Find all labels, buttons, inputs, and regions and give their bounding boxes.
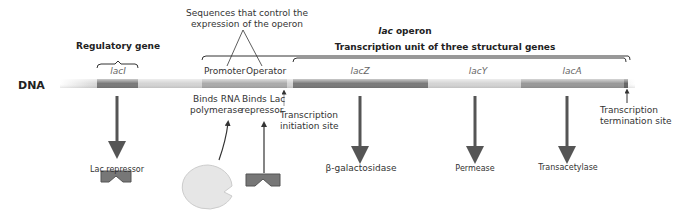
promoter-label: Promoter: [204, 66, 245, 77]
control-title-2: expression of the operon: [191, 19, 303, 30]
transacetylase-label: Transacetylase: [538, 162, 597, 173]
binds-lac-2: repressor: [241, 105, 283, 116]
permease-label: Permease: [455, 163, 494, 174]
binds-rna-1: Binds RNA: [193, 94, 240, 105]
binds-lac-1: Binds Lac: [242, 94, 285, 105]
term-site-2: termination site: [600, 116, 671, 127]
rna-polymerase-icon: [182, 165, 232, 209]
regulatory-gene-label: Regulatory gene: [76, 41, 160, 52]
transcription-unit-label: Transcription unit of three structural g…: [335, 42, 556, 53]
init-site-2: initiation site: [280, 121, 339, 132]
init-site-1: Transcription: [280, 110, 338, 121]
control-title-1: Sequences that control the: [186, 8, 308, 19]
diagram-graphics: [0, 0, 683, 210]
binds-rna-2: polymerase: [190, 105, 243, 116]
lacy-label: lacY: [469, 66, 487, 77]
laca-label: lacA: [562, 66, 581, 77]
b-galactosidase-label: β-galactosidase: [326, 163, 397, 174]
dna-strand: [60, 79, 635, 88]
laci-label: lacI: [110, 66, 126, 77]
lacz-label: lacZ: [350, 66, 369, 77]
operator-label: Operator: [246, 66, 286, 77]
lac-repressor-bound-icon: [246, 174, 280, 186]
term-site-1: Transcription: [600, 105, 658, 116]
lac-operon-title: lac operon: [378, 26, 431, 37]
lac-repressor-label: Lac repressor: [90, 164, 144, 175]
dna-label: DNA: [18, 80, 45, 91]
